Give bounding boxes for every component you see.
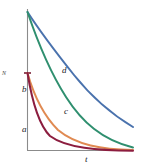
x-axis-label: t xyxy=(85,154,88,164)
curve-label-c: c xyxy=(64,106,68,116)
exponential-decay-chart: N d c b a t xyxy=(0,0,141,167)
curve-label-d: d xyxy=(62,65,67,75)
curve-label-a: a xyxy=(22,124,27,134)
curve-label-b: b xyxy=(22,84,27,94)
curve-b xyxy=(28,73,134,150)
decay-curves-figure: N d c b a t xyxy=(0,0,141,167)
y-axis-label: N xyxy=(1,70,7,76)
